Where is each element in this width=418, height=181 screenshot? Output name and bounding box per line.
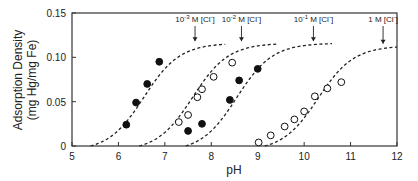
x-tick-label: 6 (116, 151, 122, 162)
fit-curve (265, 47, 397, 146)
y-axis-label: Adsorption Density (11, 30, 25, 131)
filled-point (254, 65, 261, 72)
adsorption-density-chart: 5678910111200.050.100.15 10-3 M [Cl-]10-… (0, 0, 418, 181)
open-point (311, 93, 318, 100)
filled-point (123, 121, 130, 128)
open-point (291, 116, 298, 123)
open-point (194, 94, 201, 101)
open-point (281, 123, 288, 130)
chart-svg: 5678910111200.050.100.15 10-3 M [Cl-]10-… (0, 0, 418, 181)
filled-point (226, 96, 233, 103)
x-tick-label: 5 (69, 151, 75, 162)
series-label: 10-3 M [Cl-] (175, 14, 214, 24)
open-point (301, 108, 308, 115)
series-label: 10-1 M [Cl-] (294, 14, 333, 24)
y-axis-units: (mg Hg/mg Fe) (25, 40, 39, 121)
open-point (324, 85, 331, 92)
x-tick-label: 8 (209, 151, 215, 162)
filled-point (199, 120, 206, 127)
fit-curves (91, 44, 397, 146)
x-tick-label: 7 (162, 151, 168, 162)
filled-point (236, 77, 243, 84)
fit-curve (186, 44, 332, 146)
y-tick-label: 0.15 (47, 8, 67, 19)
open-point (255, 139, 262, 146)
axes: 5678910111200.050.100.15 (47, 8, 403, 162)
open-point (338, 79, 345, 86)
x-tick-label: 9 (255, 151, 261, 162)
filled-point (144, 81, 151, 88)
open-point (199, 86, 206, 93)
series-label: 1 M [Cl-] (368, 14, 398, 24)
open-point (175, 119, 182, 126)
arrow-head-icon (311, 37, 316, 41)
filled-point (133, 99, 140, 106)
y-tick-label: 0 (60, 141, 66, 152)
arrow-head-icon (239, 37, 244, 41)
x-tick-label: 11 (345, 151, 356, 162)
series-label: 10-2 M [Cl-] (222, 14, 261, 24)
arrow-head-icon (381, 40, 386, 44)
arrow-head-icon (193, 37, 198, 41)
open-point (267, 132, 274, 139)
open-point (229, 59, 236, 66)
y-tick-label: 0.10 (47, 52, 67, 63)
y-tick-label: 0.05 (47, 97, 67, 108)
series-labels: 10-3 M [Cl-]10-2 M [Cl-]10-1 M [Cl-]1 M … (175, 14, 398, 44)
filled-point (185, 128, 192, 135)
x-tick-label: 10 (299, 151, 311, 162)
plot-frame (72, 13, 397, 146)
x-axis-label: pH (226, 163, 241, 177)
filled-point (156, 58, 163, 65)
open-point (210, 73, 217, 80)
open-point (185, 112, 192, 119)
x-tick-label: 12 (391, 151, 403, 162)
